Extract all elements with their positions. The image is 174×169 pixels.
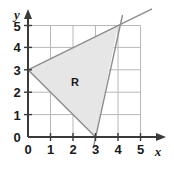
y-tick-labels: 0 1 2 3 4 5 [13,19,21,146]
region-label-R: R [71,76,79,88]
coordinate-plane: 0 1 2 3 4 5 0 1 2 3 4 5 x y R [0,0,174,169]
x-axis-arrowhead [156,133,166,141]
y-tick-label-1: 1 [13,108,20,123]
y-axis-label: y [12,7,20,22]
x-tick-label-4: 4 [114,142,122,157]
y-tick-label-0: 0 [13,130,20,145]
y-axis-arrowhead [24,9,32,19]
x-axis-label: x [154,144,162,159]
x-tick-label-3: 3 [92,142,99,157]
x-tick-label-2: 2 [69,142,76,157]
graph-figure: 0 1 2 3 4 5 0 1 2 3 4 5 x y R [0,0,174,169]
x-tick-label-1: 1 [47,142,54,157]
x-tick-label-5: 5 [137,142,144,157]
y-tick-label-3: 3 [13,63,20,78]
y-tick-label-4: 4 [13,40,21,55]
y-tick-label-2: 2 [13,85,20,100]
x-tick-label-0: 0 [24,142,31,157]
x-tick-labels: 0 1 2 3 4 5 [24,142,144,157]
